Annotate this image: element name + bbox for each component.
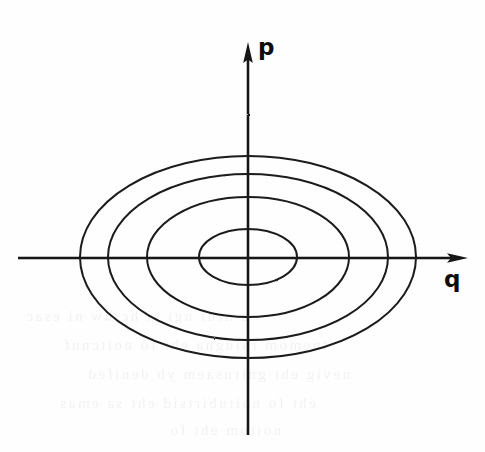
figure-page: a nrul ngi si hcihw ni esac tnemom ralug… [0, 0, 485, 452]
q-axis [18, 253, 468, 263]
phase-space-figure [0, 0, 485, 452]
p-axis [243, 42, 253, 435]
p-axis-label: p [258, 36, 274, 59]
axes-group [18, 42, 468, 435]
q-axis-label: q [444, 268, 460, 291]
